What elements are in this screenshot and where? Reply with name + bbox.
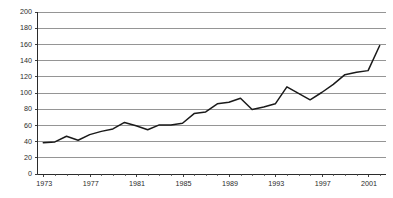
- y-tick-label: 140: [20, 56, 32, 65]
- chart-canvas: 020406080100120140160180200 197319771981…: [0, 0, 393, 198]
- x-tick-label: 1997: [315, 179, 331, 188]
- x-tick-label: 1985: [176, 179, 192, 188]
- line-chart: 020406080100120140160180200 197319771981…: [0, 0, 393, 198]
- y-tick-label: 100: [20, 88, 32, 97]
- y-tick-label: 80: [24, 104, 32, 113]
- x-axis-tick-labels: 19731977198119851989199319972001: [36, 179, 377, 188]
- y-tick-label: 200: [20, 7, 32, 16]
- x-tick-label: 1993: [268, 179, 284, 188]
- x-tick-label: 2001: [361, 179, 377, 188]
- y-axis: [35, 12, 38, 175]
- y-tick-label: 120: [20, 72, 32, 81]
- x-tick-label: 1973: [36, 179, 52, 188]
- x-tick-label: 1977: [83, 179, 99, 188]
- y-tick-label: 40: [24, 137, 32, 146]
- y-tick-label: 160: [20, 40, 32, 49]
- y-axis-tick-labels: 020406080100120140160180200: [20, 7, 32, 178]
- y-tick-label: 180: [20, 23, 32, 32]
- y-tick-label: 0: [28, 169, 32, 178]
- x-tick-label: 1981: [129, 179, 145, 188]
- x-tick-label: 1989: [222, 179, 238, 188]
- gridlines: [38, 13, 386, 175]
- y-tick-label: 20: [24, 153, 32, 162]
- x-axis: [38, 174, 386, 178]
- y-tick-label: 60: [24, 121, 32, 130]
